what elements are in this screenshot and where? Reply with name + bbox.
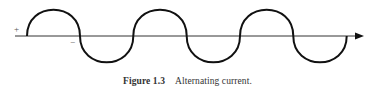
negative-sign: − — [70, 37, 75, 47]
figure-caption: Figure 1.3 Alternating current. — [0, 76, 375, 86]
axis-arrowhead-icon — [355, 33, 364, 40]
waveform-diagram: + − — [0, 0, 375, 72]
alternating-current-figure: + − — [0, 0, 375, 72]
figure-label: Figure 1.3 — [123, 76, 165, 86]
figure-title: Alternating current. — [175, 76, 252, 86]
positive-sign: + — [14, 24, 19, 34]
